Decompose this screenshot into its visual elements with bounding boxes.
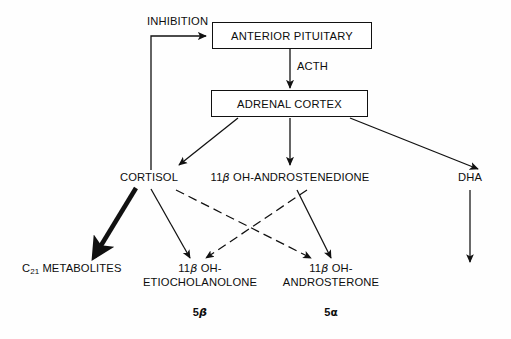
etiocholanolone-label: 11β OH- ETIOCHOLANOLONE [143, 262, 257, 289]
pathway-diagram: ANTERIOR PITUITARY ADRENAL CORTEX INHIBI… [0, 0, 511, 339]
five-alpha-glyph: α [330, 306, 337, 318]
inhibition-label: INHIBITION [147, 15, 208, 28]
androsterone-beta-glyph: β [321, 262, 328, 275]
androsterone-line1: 11β OH- [283, 262, 379, 276]
edge-androstenedione-to-androsterone [297, 190, 331, 258]
c21-prefix: C [22, 262, 30, 274]
etiocholanolone-beta-glyph: β [190, 262, 197, 275]
acth-label: ACTH [297, 60, 328, 73]
edge-cortex-to-dha [350, 118, 478, 169]
etiocholanolone-line2: ETIOCHOLANOLONE [143, 276, 257, 290]
edge-cortisol-to-c21 [94, 188, 136, 257]
c21-metabolites-label: C21 METABOLITES [22, 262, 122, 278]
androstenedione-prefix: 11 [211, 171, 223, 183]
c21-subscript: 21 [30, 267, 39, 276]
etiocholanolone-prefix: 11 [178, 262, 190, 274]
node-anterior-pituitary[interactable]: ANTERIOR PITUITARY [212, 22, 372, 49]
five-beta-glyph: β [199, 306, 207, 319]
androsterone-line2: ANDROSTERONE [283, 276, 379, 290]
dha-label: DHA [458, 171, 482, 184]
five-alpha-label: 5α [324, 306, 338, 319]
node-adrenal-cortex[interactable]: ADRENAL CORTEX [211, 90, 368, 117]
androsterone-oh: OH- [328, 262, 352, 274]
edge-cortisol-to-etiocholanolone [151, 189, 190, 258]
androstenedione-rest: OH-ANDROSTENEDIONE [230, 171, 370, 183]
c21-rest: METABOLITES [39, 262, 121, 274]
etiocholanolone-line1: 11β OH- [143, 262, 257, 276]
cortisol-label: CORTISOL [120, 171, 178, 184]
anterior-pituitary-label: ANTERIOR PITUITARY [231, 30, 353, 42]
androstenedione-label: 11β OH-ANDROSTENEDIONE [211, 171, 370, 184]
androsterone-prefix: 11 [309, 262, 321, 274]
adrenal-cortex-label: ADRENAL CORTEX [237, 98, 342, 110]
etiocholanolone-oh: OH- [198, 262, 222, 274]
five-beta-label: 5β [193, 306, 207, 319]
androsterone-label: 11β OH- ANDROSTERONE [283, 262, 379, 289]
edge-cortex-to-cortisol [179, 118, 238, 165]
